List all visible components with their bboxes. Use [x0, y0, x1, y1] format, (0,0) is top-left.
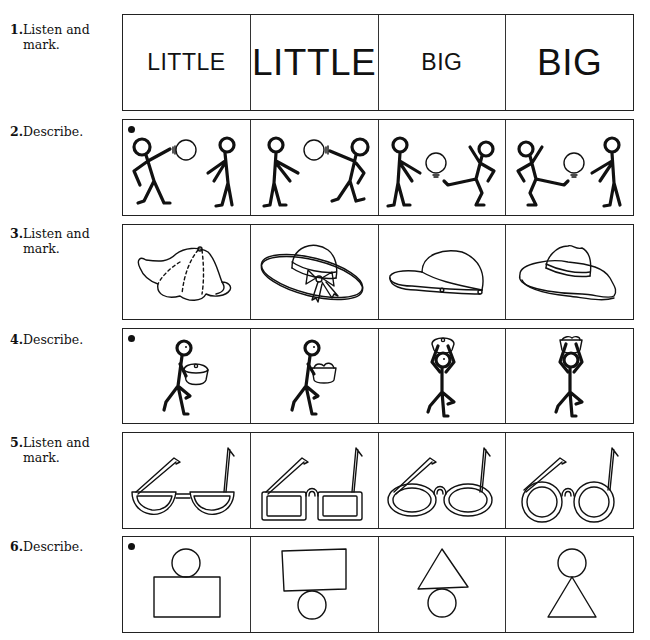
stick-figure-kicking-ball-right-icon: [508, 123, 632, 213]
triangle-on-circle-icon: [380, 539, 504, 631]
exercise-number: 5.: [10, 435, 23, 450]
exercise-1-label: 1.Listen and mark.: [10, 22, 115, 52]
picture-cell[interactable]: [379, 537, 507, 632]
picture-cell[interactable]: [251, 120, 379, 215]
picture-cell[interactable]: [123, 329, 251, 423]
figure-carrying-full-basket-icon: [254, 332, 374, 420]
exercise-6-label: 6.Describe.: [10, 539, 115, 554]
answer-cell[interactable]: [123, 225, 251, 319]
rectangle-on-circle-icon: [252, 539, 376, 631]
answer-cell[interactable]: LITTLE: [251, 15, 379, 110]
picture-cell[interactable]: [123, 120, 251, 215]
exercise-2-row: [122, 119, 634, 216]
exercise-1-row: LITTLE LITTLE BIG BIG: [122, 14, 634, 111]
answer-cell[interactable]: BIG: [379, 15, 507, 110]
square-glasses-icon: [252, 436, 376, 526]
figure-basket-on-head-icon: [510, 332, 630, 420]
exercise-number: 1.: [10, 22, 23, 37]
answer-cell[interactable]: [251, 433, 379, 528]
answer-cell[interactable]: [251, 225, 379, 319]
answer-cell[interactable]: [123, 433, 251, 528]
circle-on-triangle-icon: [508, 539, 632, 631]
exercise-4-label: 4.Describe.: [10, 332, 115, 347]
answer-cell[interactable]: LITTLE: [123, 15, 251, 110]
picture-cell[interactable]: [123, 537, 251, 632]
exercise-2-label: 2.Describe.: [10, 124, 115, 139]
picture-cell[interactable]: [251, 537, 379, 632]
circle-on-rectangle-icon: [124, 539, 248, 631]
small-cap-icon: [382, 232, 502, 312]
picture-cell[interactable]: [379, 329, 507, 423]
exercise-5-label: 5.Listen and mark.: [10, 435, 115, 465]
exercise-instruction: Listen and mark.: [23, 22, 111, 52]
word-big-large: BIG: [537, 42, 602, 84]
answer-cell[interactable]: [379, 225, 507, 319]
stick-figure-throwing-ball-left-icon: [252, 123, 376, 213]
figure-pot-on-head-icon: [382, 332, 502, 420]
stick-figure-throwing-ball-right-icon: [124, 123, 248, 213]
exercise-number: 3.: [10, 226, 23, 241]
exercise-number: 6.: [10, 539, 23, 554]
word-little-large: LITTLE: [252, 42, 376, 84]
exercise-number: 2.: [10, 124, 23, 139]
word-big-small: BIG: [421, 49, 462, 76]
stick-figure-kicking-ball-left-icon: [380, 123, 504, 213]
round-glasses-icon: [508, 436, 632, 526]
figure-carrying-covered-pot-icon: [126, 332, 246, 420]
answer-cell[interactable]: [506, 225, 633, 319]
exercise-number: 4.: [10, 332, 23, 347]
picture-cell[interactable]: [251, 329, 379, 423]
word-little-small: LITTLE: [147, 49, 225, 76]
half-moon-glasses-icon: [124, 436, 248, 526]
exercise-3-row: [122, 224, 634, 320]
exercise-instruction: Describe.: [23, 332, 111, 347]
answer-cell[interactable]: BIG: [506, 15, 633, 110]
picture-cell[interactable]: [379, 120, 507, 215]
exercise-3-label: 3.Listen and mark.: [10, 226, 115, 256]
picture-cell[interactable]: [506, 537, 633, 632]
exercise-instruction: Listen and mark.: [23, 435, 111, 465]
baseball-cap-icon: [126, 232, 246, 312]
picture-cell[interactable]: [506, 329, 633, 423]
exercise-instruction: Describe.: [23, 539, 111, 554]
exercise-5-row: [122, 432, 634, 529]
picture-cell[interactable]: [506, 120, 633, 215]
exercise-4-row: [122, 328, 634, 424]
exercise-instruction: Describe.: [23, 124, 111, 139]
answer-cell[interactable]: [506, 433, 633, 528]
oval-glasses-icon: [380, 436, 504, 526]
wide-brim-hat-icon: [510, 232, 630, 312]
answer-cell[interactable]: [379, 433, 507, 528]
exercise-instruction: Listen and mark.: [23, 226, 111, 256]
exercise-6-row: [122, 536, 634, 633]
sun-hat-with-bow-icon: [254, 232, 374, 312]
